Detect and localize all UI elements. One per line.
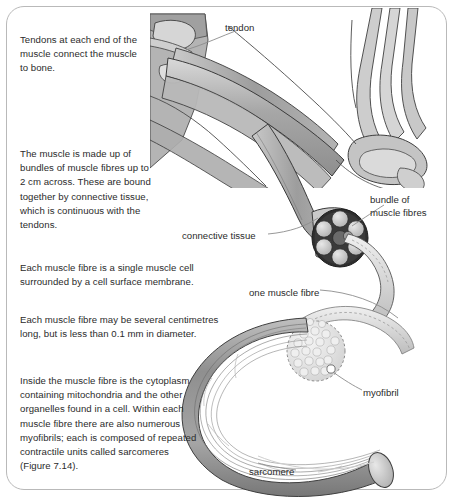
- muscle-structure-figure: Tendons at each end of the muscle connec…: [0, 0, 460, 503]
- label-bundle-of-muscle-fibres: bundle of muscle fibres: [370, 193, 454, 219]
- label-sarcomere: sarcomere: [249, 465, 294, 478]
- paragraph-single-cell: Each muscle fibre is a single muscle cel…: [20, 261, 235, 289]
- paragraph-tendons: Tendons at each end of the muscle connec…: [20, 33, 210, 76]
- paragraph-bundles: The muscle is made up of bundles of musc…: [20, 147, 210, 232]
- paragraph-dimensions: Each muscle fibre may be several centime…: [20, 313, 235, 341]
- leader-line-myofibril: [333, 372, 362, 390]
- label-one-muscle-fibre: one muscle fibre: [249, 286, 319, 299]
- label-myofibril: myofibril: [363, 386, 399, 399]
- label-connective-tissue: connective tissue: [182, 229, 256, 242]
- label-tendon: tendon: [225, 21, 254, 34]
- paragraph-cytoplasm: Inside the muscle fibre is the cytoplasm…: [20, 374, 245, 473]
